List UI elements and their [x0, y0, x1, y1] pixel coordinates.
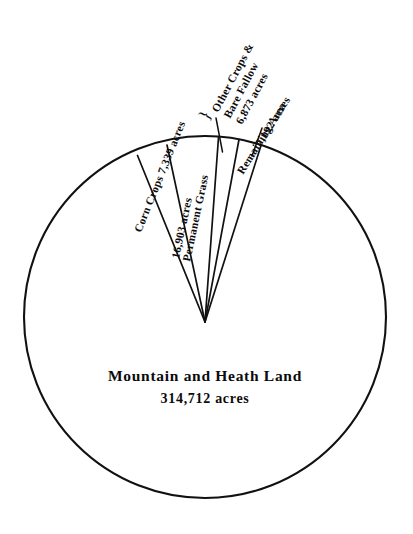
slice-label-mountain-heath-land: Mountain and Heath Land — [108, 367, 302, 384]
wedge-divider-grass-othercrops — [205, 138, 219, 323]
land-use-pie-chart-svg: Corn Crops 7,339 acres Permanent Grass 1… — [0, 0, 413, 534]
slice-value-remaining-area: 7,192 acres — [253, 94, 293, 148]
pie-chart-figure: Corn Crops 7,339 acres Permanent Grass 1… — [0, 0, 413, 534]
slice-value-mountain-heath-land: 314,712 acres — [161, 391, 250, 406]
